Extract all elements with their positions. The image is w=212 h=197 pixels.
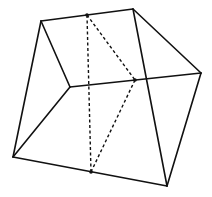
dashed-cross-section	[87, 15, 135, 172]
polyhedron-diagram	[0, 0, 212, 197]
point-M2	[133, 78, 137, 82]
edge-AF	[41, 21, 70, 87]
marked-points	[85, 13, 137, 174]
point-M1	[85, 13, 89, 17]
edge-EA	[13, 21, 41, 157]
edge-FE	[13, 87, 70, 157]
dashed-edge-M2M3	[91, 80, 135, 172]
dashed-edge-M1M2	[87, 15, 135, 80]
point-M3	[89, 170, 93, 174]
solid-edges	[13, 9, 201, 186]
dashed-edge-M1M3	[87, 15, 91, 172]
edge-CD	[167, 73, 201, 186]
